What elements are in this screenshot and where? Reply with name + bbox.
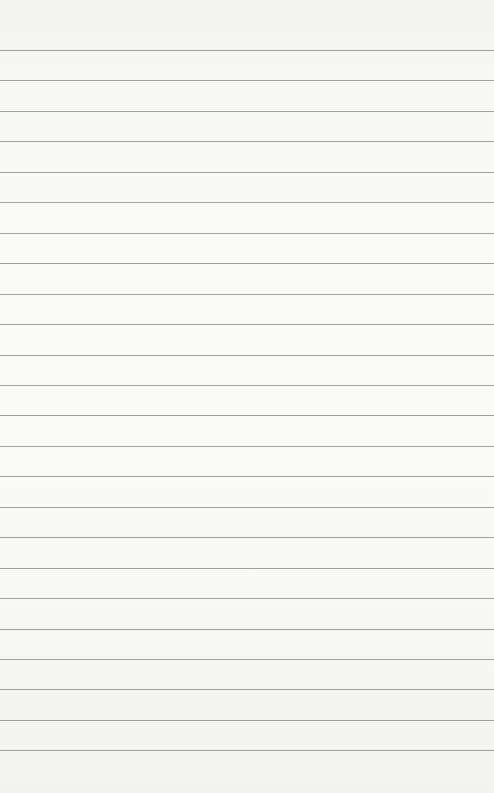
ruled-line <box>0 689 494 690</box>
ruled-line <box>0 172 494 173</box>
ruled-line <box>0 263 494 264</box>
ruled-line <box>0 50 494 51</box>
ruled-line <box>0 80 494 81</box>
ruled-line <box>0 294 494 295</box>
ruled-line <box>0 476 494 477</box>
ruled-line <box>0 202 494 203</box>
ruled-line <box>0 629 494 630</box>
ruled-line <box>0 324 494 325</box>
ruled-line <box>0 233 494 234</box>
ruled-line <box>0 568 494 569</box>
ruled-line <box>0 537 494 538</box>
ruled-line <box>0 446 494 447</box>
ruled-line <box>0 659 494 660</box>
ruled-line <box>0 385 494 386</box>
ruled-line <box>0 720 494 721</box>
lined-paper <box>0 0 494 793</box>
ruled-line <box>0 507 494 508</box>
ruled-line <box>0 355 494 356</box>
ruled-line <box>0 141 494 142</box>
ruled-line <box>0 750 494 751</box>
ruled-line <box>0 111 494 112</box>
ruled-line <box>0 415 494 416</box>
ruled-line <box>0 598 494 599</box>
